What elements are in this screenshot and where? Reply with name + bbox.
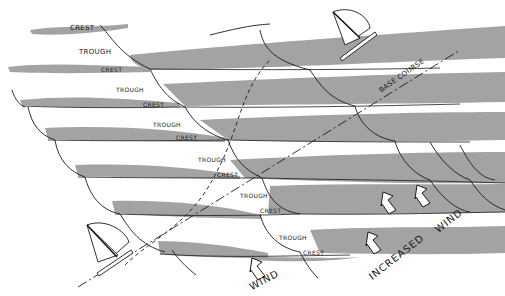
wave-diagram: CREST TROUGH CREST TROUGH CREST TROUGH C… — [0, 0, 505, 296]
crest-label: CREST — [260, 207, 281, 214]
trough-label: TROUGH — [153, 121, 181, 128]
crest-label: CREST — [143, 101, 164, 108]
crest-label: CREST — [176, 134, 197, 141]
trough-label: TROUGH — [198, 156, 226, 163]
crest-label: CREST — [303, 249, 324, 256]
crest-label: CREST — [70, 24, 94, 32]
trough-label: TROUGH — [116, 86, 144, 93]
trough-label: TROUGH — [240, 192, 268, 199]
wave-diagram-canvas — [0, 0, 505, 296]
trough-label: TROUGH — [79, 48, 111, 56]
sailboat-bottom-icon — [87, 223, 133, 276]
trough-label: TROUGH — [279, 234, 307, 241]
crest-label: CREST — [217, 171, 238, 178]
crest-label: CREST — [101, 66, 122, 73]
